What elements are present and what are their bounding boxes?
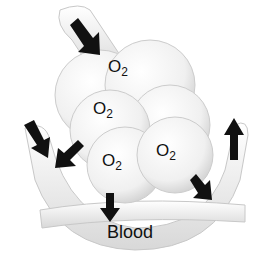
alveolus-diagram bbox=[0, 0, 269, 253]
o2-label-2: O2 bbox=[93, 100, 113, 120]
o2-label-3: O2 bbox=[102, 152, 122, 172]
blood-label: Blood bbox=[107, 222, 153, 243]
o2-label-4: O2 bbox=[156, 142, 176, 162]
o2-label-1: O2 bbox=[108, 58, 128, 78]
